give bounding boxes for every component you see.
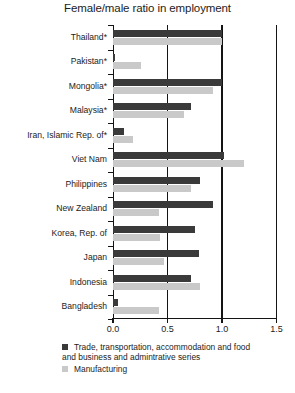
category-label: Iran, Islamic Rep. of*	[5, 130, 113, 140]
category-axis-labels: Thailand*Pakistan*Mongolia*Malaysia*Iran…	[0, 25, 113, 319]
bar	[113, 226, 195, 233]
light-square-swatch	[62, 366, 68, 372]
category-label: Indonesia	[5, 277, 113, 287]
category-label: Viet Nam	[5, 154, 113, 164]
category-label: Mongolia*	[5, 81, 113, 91]
category-label: Malaysia*	[5, 105, 113, 115]
bar	[113, 79, 222, 86]
category-label: New Zealand	[5, 203, 113, 213]
bar	[113, 234, 160, 241]
bar	[113, 38, 222, 45]
dark-square-swatch	[62, 344, 68, 350]
category-label: Korea, Rep. of	[5, 228, 113, 238]
bar	[113, 283, 200, 290]
x-axis-tick-label: 1.5	[262, 324, 292, 334]
x-axis-tick-label: 1.0	[207, 324, 237, 334]
bar	[113, 307, 159, 314]
plot-area	[113, 25, 277, 319]
bar	[113, 160, 244, 167]
legend-item: Manufacturing	[62, 364, 295, 374]
chart-legend: Trade, transportation, accommodation and…	[62, 342, 295, 376]
bar	[113, 62, 141, 69]
bar	[113, 275, 191, 282]
bar	[113, 299, 118, 306]
legend-label: Manufacturing	[74, 364, 295, 374]
chart-container: Female/male ratio in employment Thailand…	[0, 0, 295, 393]
bar	[113, 87, 213, 94]
bar	[113, 54, 115, 61]
legend-item: Trade, transportation, accommodation and…	[62, 342, 295, 362]
legend-label: Trade, transportation, accommodation and…	[74, 342, 295, 352]
category-label: Pakistan*	[5, 56, 113, 66]
bar	[113, 209, 159, 216]
x-axis-tick-label: 0.5	[153, 324, 183, 334]
bar	[113, 103, 191, 110]
bar	[113, 185, 191, 192]
bar	[113, 177, 200, 184]
category-label: Philippines	[5, 179, 113, 189]
category-label: Bangladesh	[5, 301, 113, 311]
category-label: Japan	[5, 252, 113, 262]
chart-title: Female/male ratio in employment	[0, 2, 295, 14]
bar	[113, 258, 164, 265]
bar	[113, 128, 124, 135]
bar	[113, 201, 213, 208]
category-label: Thailand*	[5, 32, 113, 42]
x-axis-tick-label: 0.0	[98, 324, 128, 334]
bar	[113, 136, 133, 143]
bar	[113, 152, 224, 159]
bar	[113, 111, 184, 118]
bar	[113, 30, 222, 37]
bar	[113, 250, 199, 257]
legend-label-continuation: and business and admintrative series	[62, 352, 295, 362]
